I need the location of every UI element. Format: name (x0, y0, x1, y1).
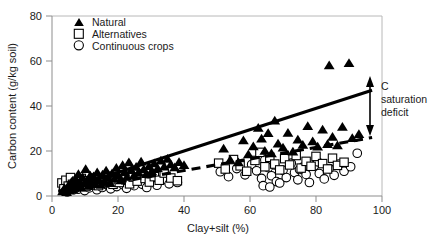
data-point-square (221, 165, 229, 173)
data-point-triangle (243, 150, 254, 159)
x-tick-label: 100 (373, 204, 391, 216)
data-point-square (307, 162, 315, 170)
arrowhead-down-icon (366, 125, 374, 136)
annotation-line-2: saturation (381, 93, 427, 105)
data-point-triangle (302, 121, 313, 130)
legend-marker-alternatives-icon (74, 29, 83, 38)
y-tick-label: 60 (30, 55, 42, 67)
data-point-square (323, 165, 331, 173)
data-point-triangle (327, 132, 338, 141)
x-tick-label: 80 (310, 204, 322, 216)
x-axis-ticks (52, 196, 382, 202)
y-axis-tick-labels: 0 20 40 60 80 (30, 10, 42, 202)
legend-marker-continuous-crops-icon (74, 41, 83, 50)
data-point-circle (294, 176, 303, 185)
x-axis-tick-labels: 0 20 40 60 80 100 (49, 204, 391, 216)
data-point-triangle (283, 128, 294, 137)
c-saturation-deficit-annotation: C saturation deficit (366, 76, 427, 136)
y-tick-label: 40 (30, 100, 42, 112)
data-point-triangle (248, 141, 259, 150)
y-tick-label: 80 (30, 10, 42, 22)
x-tick-label: 40 (178, 204, 190, 216)
chart-figure: 0 20 40 60 80 0 20 40 60 80 100 Clay+sil… (0, 0, 433, 237)
data-point-triangle (218, 144, 229, 153)
data-point-square (243, 167, 251, 175)
legend-label-natural: Natural (92, 16, 126, 28)
data-point-triangle (123, 158, 134, 167)
y-tick-label: 20 (30, 145, 42, 157)
y-tick-label: 0 (36, 190, 42, 202)
legend-marker-natural-icon (74, 18, 84, 26)
arrowhead-up-icon (366, 76, 374, 87)
data-point-circle (320, 175, 329, 184)
annotation-line-3: deficit (381, 106, 409, 118)
data-point-square (285, 161, 293, 169)
data-point-triangle (344, 58, 355, 67)
data-point-square (261, 163, 269, 171)
y-axis-ticks (46, 16, 52, 196)
legend: Natural Alternatives Continuous crops (74, 16, 174, 52)
legend-label-alternatives: Alternatives (92, 28, 147, 40)
data-point-square (173, 177, 181, 185)
annotation-line-1: C (381, 80, 389, 92)
data-point-circle (353, 149, 362, 158)
data-point-triangle (263, 128, 274, 137)
data-point-circle (252, 167, 261, 176)
data-point-triangle (324, 60, 335, 69)
data-point-triangle (354, 129, 365, 138)
data-point-circle (305, 178, 314, 187)
x-tick-label: 0 (49, 204, 55, 216)
y-axis-title: Carbon content (g/kg soil) (6, 43, 18, 169)
scatter-plot-svg: 0 20 40 60 80 0 20 40 60 80 100 Clay+sil… (0, 0, 433, 237)
data-point-triangle (238, 136, 249, 145)
data-point-square (276, 166, 284, 174)
data-point-triangle (317, 125, 328, 134)
x-tick-label: 20 (112, 204, 124, 216)
data-point-square (340, 158, 348, 166)
legend-label-continuous-crops: Continuous crops (92, 40, 174, 52)
data-point-triangle (80, 164, 91, 173)
data-point-circle (266, 183, 275, 192)
x-axis-title: Clay+silt (%) (187, 222, 249, 234)
data-point-triangle (337, 122, 348, 131)
x-tick-label: 60 (244, 204, 256, 216)
